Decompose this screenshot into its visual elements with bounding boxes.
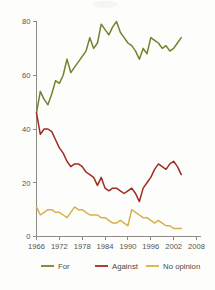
series-line-against — [37, 113, 182, 202]
chart-container: 0204060801966197219781984199019962002200… — [0, 0, 215, 290]
x-tick-label: 2008 — [188, 242, 205, 251]
legend-item-no-opinion: No opinion — [146, 262, 200, 271]
y-tick-label: 80 — [22, 17, 30, 26]
series-line-for — [37, 22, 182, 113]
x-tick-label: 1990 — [119, 242, 136, 251]
legend-item-against: Against — [95, 262, 139, 271]
x-tick-label: 1972 — [51, 242, 68, 251]
legend-label-no-opinion: No opinion — [163, 262, 200, 271]
x-tick-label: 1966 — [28, 242, 45, 251]
series-line-no-opinion — [37, 207, 182, 229]
legend-label-against: Against — [112, 262, 139, 271]
y-tick-label: 60 — [22, 71, 30, 80]
legend-item-for: For — [41, 262, 70, 271]
y-tick-label: 20 — [22, 179, 30, 188]
x-tick-label: 1978 — [74, 242, 91, 251]
legend-label-for: For — [58, 262, 70, 271]
y-tick-label: 40 — [22, 125, 30, 134]
y-tick-label: 0 — [26, 232, 30, 241]
x-tick-label: 2002 — [165, 242, 182, 251]
line-chart: 0204060801966197219781984199019962002200… — [0, 0, 215, 290]
x-tick-label: 1984 — [97, 242, 114, 251]
x-tick-label: 1996 — [142, 242, 159, 251]
